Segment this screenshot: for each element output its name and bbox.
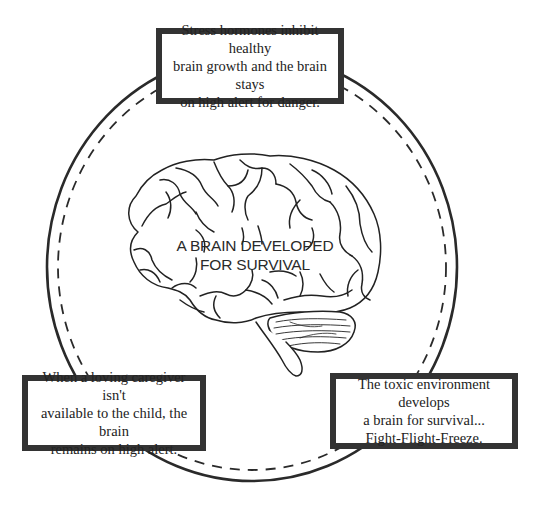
text-box-bottom-right: The toxic environment develops a brain f… bbox=[330, 373, 518, 449]
text-box-bottom-left: When a loving caregiver isn't available … bbox=[22, 375, 206, 451]
cycle-diagram: A BRAIN DEVELOPED FOR SURVIVAL Stress ho… bbox=[0, 0, 541, 512]
text-box-top: Stress hormones inhibit healthy brain gr… bbox=[156, 28, 344, 104]
text-box-top-text: Stress hormones inhibit healthy brain gr… bbox=[168, 21, 332, 111]
center-label: A BRAIN DEVELOPED FOR SURVIVAL bbox=[150, 236, 360, 274]
text-box-bottom-left-text: When a loving caregiver isn't available … bbox=[34, 368, 194, 458]
text-box-bottom-right-text: The toxic environment develops a brain f… bbox=[342, 375, 506, 447]
